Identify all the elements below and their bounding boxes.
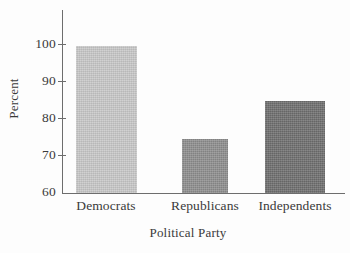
y-tick-label-60: 60 [16,185,56,199]
x-axis-title: Political Party [0,226,350,240]
bar-independents [265,101,325,193]
y-tick-label-80: 80 [16,111,56,125]
y-tick-label-70: 70 [16,148,56,162]
bar-democrats [76,46,137,193]
y-tick-mark-80 [58,118,66,119]
y-tick-mark-90 [58,81,66,82]
x-axis-line [62,193,345,194]
y-axis-title: Percent [7,64,20,134]
x-category-label-independents: Independents [235,198,350,213]
chart-title-cropped [55,0,265,4]
y-axis-line [62,10,63,194]
bar-republicans [182,139,228,193]
bar-chart-figure: 100 90 80 70 60 Percent Democrats Republ… [0,0,350,253]
y-tick-mark-100 [58,44,66,45]
y-tick-mark-70 [58,155,66,156]
y-tick-label-100: 100 [16,37,56,51]
y-tick-label-90: 90 [16,74,56,88]
